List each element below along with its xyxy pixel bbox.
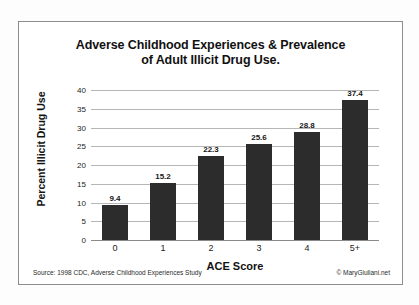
bar-value-label-0: 9.4 [109, 194, 120, 203]
bar-2[interactable] [198, 156, 225, 240]
bar-1[interactable] [150, 183, 177, 240]
x-tick-label-5: 5+ [331, 243, 379, 253]
chart-title-line-2: of Adult Illicit Drug Use. [19, 53, 402, 68]
plot-wrapper: Percent Illicit Drug Use 40 35 30 25 20 [19, 78, 404, 258]
y-tick-label-0: 0 [82, 236, 86, 245]
x-tick-label-2: 2 [187, 243, 235, 253]
bar-value-label-4: 28.8 [299, 121, 315, 130]
source-note: Source: 1998 CDC, Adverse Childhood Expe… [33, 269, 202, 276]
copyright-note: © MaryGiuliani.net [336, 269, 390, 276]
chart-title-line-1: Adverse Childhood Experiences & Prevalen… [76, 38, 346, 52]
bar-slot-3: 25.6 [235, 90, 283, 240]
x-tick-label-1: 1 [139, 243, 187, 253]
bar-series: 9.4 15.2 22.3 25.6 [91, 90, 379, 240]
x-tick-label-3: 3 [235, 243, 283, 253]
bar-slot-4: 28.8 [283, 90, 331, 240]
x-axis-tick-labels: 0 1 2 3 4 5+ [91, 243, 379, 253]
x-tick-label-0: 0 [91, 243, 139, 253]
x-tick-label-4: 4 [283, 243, 331, 253]
y-tick-label-20: 20 [77, 161, 86, 170]
bar-5[interactable] [342, 100, 369, 240]
y-tick-label-35: 35 [77, 104, 86, 113]
y-tick-label-25: 25 [77, 142, 86, 151]
plot-area: 40 35 30 25 20 15 10 [91, 90, 379, 240]
bar-slot-2: 22.3 [187, 90, 235, 240]
bar-value-label-2: 22.3 [203, 145, 219, 154]
bar-slot-5: 37.4 [331, 90, 379, 240]
y-tick-label-40: 40 [77, 86, 86, 95]
bar-4[interactable] [294, 132, 321, 240]
bar-0[interactable] [102, 205, 129, 240]
page-background: Adverse Childhood Experiences & Prevalen… [0, 0, 419, 305]
bar-value-label-5: 37.4 [347, 89, 363, 98]
y-tick-label-5: 5 [82, 217, 86, 226]
bar-3[interactable] [246, 144, 273, 240]
y-tick-label-15: 15 [77, 179, 86, 188]
y-axis-title: Percent Illicit Drug Use [35, 84, 47, 214]
bar-slot-1: 15.2 [139, 90, 187, 240]
bar-value-label-3: 25.6 [251, 133, 267, 142]
chart-title: Adverse Childhood Experiences & Prevalen… [19, 38, 402, 68]
bar-value-label-1: 15.2 [155, 172, 171, 181]
gridline-0-baseline: 0 [91, 240, 379, 241]
bar-slot-0: 9.4 [91, 90, 139, 240]
y-tick-label-30: 30 [77, 123, 86, 132]
y-tick-label-10: 10 [77, 198, 86, 207]
chart-frame: Adverse Childhood Experiences & Prevalen… [18, 21, 403, 285]
